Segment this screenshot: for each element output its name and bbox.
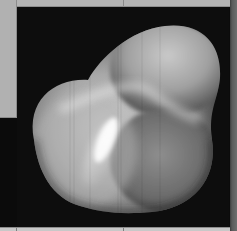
bottom-status-strip	[0, 227, 230, 231]
right-scrollbar-edge[interactable]	[230, 0, 237, 231]
toolbar-divider	[123, 0, 124, 6]
status-divider	[123, 228, 124, 231]
status-divider	[16, 228, 17, 231]
viewer-window: 3D surface viewport	[0, 0, 237, 231]
left-side-panel[interactable]	[0, 0, 17, 118]
surface-render[interactable]	[17, 7, 229, 227]
3d-viewport[interactable]: 3D surface viewport	[17, 7, 229, 227]
top-toolbar-strip	[0, 0, 230, 7]
